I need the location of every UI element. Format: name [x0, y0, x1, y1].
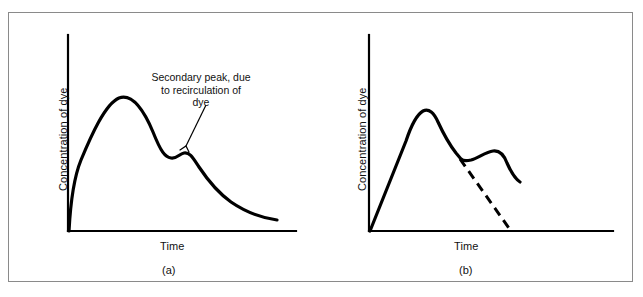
y-axis-label-b: Concentration of dye: [356, 87, 368, 191]
annotation-line-3: dye: [143, 96, 259, 109]
y-axis-label-a: Concentration of dye: [57, 87, 69, 191]
panel-caption-a: (a): [162, 264, 175, 276]
annotation-leader-line-a: [186, 105, 206, 146]
x-axis-label-a: Time: [160, 240, 184, 252]
annotation-line-1: Secondary peak, due: [143, 71, 259, 84]
annotation-secondary-peak: Secondary peak, due to recirculation of …: [143, 71, 259, 109]
curve-b-extrapolated-washout: [460, 159, 511, 231]
annotation-arrowhead-a: [180, 146, 189, 152]
figure-root: Concentration of dye Time Secondary peak…: [0, 0, 643, 297]
annotation-line-2: to recirculation of: [143, 84, 259, 97]
panel-caption-b: (b): [459, 264, 472, 276]
curve-a-dye-concentration: [69, 97, 277, 231]
panel-b: Concentration of dye Time (b): [310, 12, 622, 282]
x-axis-label-b: Time: [454, 240, 478, 252]
panel-a: Concentration of dye Time Secondary peak…: [9, 12, 321, 282]
